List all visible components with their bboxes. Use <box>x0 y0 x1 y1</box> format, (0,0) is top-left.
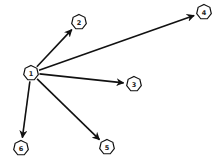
node-5: 5 <box>100 140 115 154</box>
node-2: 2 <box>72 15 87 29</box>
node-label: 1 <box>29 70 34 78</box>
node-label: 6 <box>19 145 24 153</box>
node-6: 6 <box>14 141 29 155</box>
node-label: 4 <box>202 9 207 17</box>
edge-1-to-5 <box>37 79 99 140</box>
node-label: 3 <box>132 81 137 89</box>
node-label: 5 <box>105 144 110 152</box>
edge-1-to-4 <box>39 15 194 70</box>
graph-canvas: 123456 <box>0 0 221 168</box>
edges-layer <box>22 15 194 139</box>
node-3: 3 <box>127 77 142 91</box>
edge-1-to-3 <box>39 74 123 83</box>
edge-1-to-6 <box>22 81 29 137</box>
node-1: 1 <box>24 66 39 80</box>
nodes-layer: 123456 <box>14 5 212 155</box>
node-4: 4 <box>197 5 212 19</box>
node-label: 2 <box>77 19 82 27</box>
